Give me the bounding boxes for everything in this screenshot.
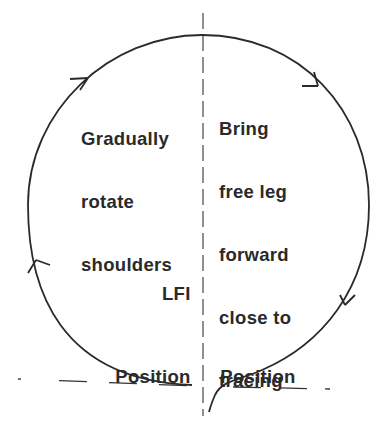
left-text-line: shoulders <box>81 254 172 275</box>
tracing-circle <box>28 35 369 412</box>
left-text-line: Gradually <box>81 128 172 149</box>
position-c-line1: Position <box>109 366 197 387</box>
right-text-line: Bring <box>219 118 294 139</box>
left-instruction-text: Gradually rotate shoulders <box>81 86 172 296</box>
arrow-icon-top-right <box>302 72 318 86</box>
edge-label-lfi: LFI <box>162 283 191 304</box>
position-c-label: Position C <box>109 324 197 432</box>
position-d-label: Position D <box>213 324 303 432</box>
arrow-icon-left-lower <box>28 260 50 273</box>
right-text-line: forward <box>219 244 294 265</box>
left-text-line: rotate <box>81 191 172 212</box>
position-d-line1: Position <box>213 366 303 387</box>
right-text-line: free leg <box>219 181 294 202</box>
